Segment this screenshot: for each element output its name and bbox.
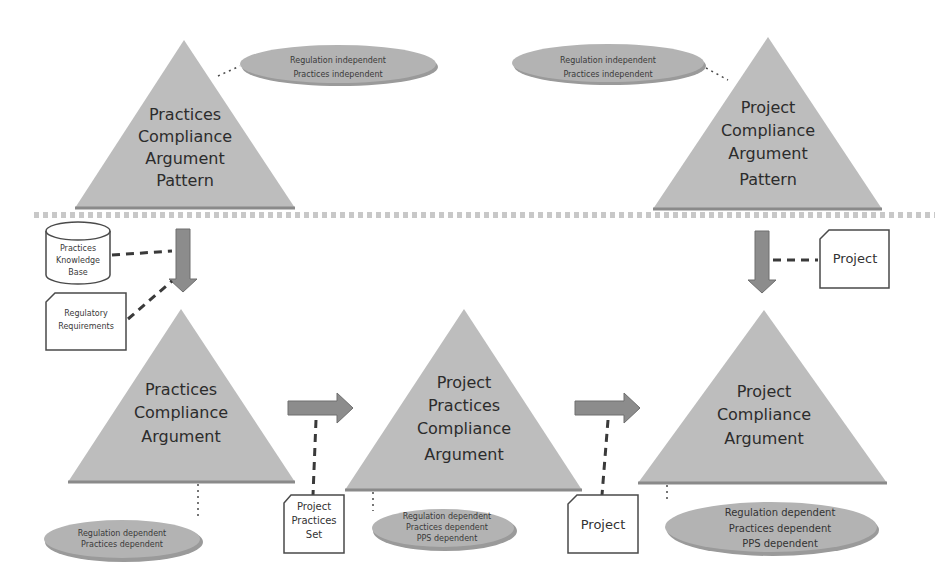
triangle-label-line: Practices (149, 105, 221, 124)
triangle-label-line: Project (737, 382, 792, 401)
triangle-label-line: Argument (141, 427, 220, 446)
triangle-label-line: Compliance (417, 419, 511, 438)
note-line: Practices independent (293, 70, 382, 79)
right-arrow-2 (575, 393, 640, 423)
triangle-label-line: Project (437, 373, 492, 392)
regulatory-requirements-document: Regulatory Requirements (46, 293, 126, 350)
triangle-label-line: Argument (424, 445, 503, 464)
note-line: Regulation independent (560, 56, 656, 65)
document-label-line: Practices (291, 515, 336, 526)
triangle-label-line: Pattern (739, 170, 797, 189)
project-compliance-argument-triangle: Project Compliance Argument (638, 310, 887, 483)
triangle-label-line: Compliance (721, 121, 815, 140)
dashed-connector (313, 420, 316, 495)
down-arrow-left (169, 229, 197, 292)
document-label-line: Set (306, 529, 323, 540)
compliance-argument-diagram: Practices Compliance Argument Pattern Re… (0, 0, 937, 585)
dependence-note-ellipse-2: Regulation dependent Practices dependent… (372, 509, 517, 551)
triangle-label-line: Argument (724, 429, 803, 448)
triangle-label-line: Compliance (138, 127, 232, 146)
triangle-label-line: Argument (145, 149, 224, 168)
document-label-line: Regulatory (64, 309, 108, 318)
document-label: Project (581, 517, 625, 532)
project-document-bottom: Project (568, 495, 638, 553)
dashed-connector (128, 281, 172, 319)
dashed-connector (602, 420, 608, 495)
note-line: PPS dependent (742, 538, 818, 549)
independence-note-ellipse-right: Regulation independent Practices indepen… (512, 44, 706, 85)
triangle-label-line: Practices (428, 396, 500, 415)
document-label-line: Project (297, 501, 331, 512)
dashed-connector (112, 251, 172, 255)
independence-note-ellipse-left: Regulation independent Practices indepen… (240, 45, 438, 86)
cylinder-label-line: Base (68, 268, 88, 277)
note-line: PPS dependent (417, 534, 478, 543)
dotted-connector (706, 68, 728, 80)
dependence-note-ellipse-3: Regulation dependent Practices dependent… (665, 502, 879, 556)
triangle-label-line: Compliance (717, 405, 811, 424)
practices-knowledge-base-cylinder: Practices Knowledge Base (46, 222, 110, 284)
down-arrow-right (748, 231, 776, 293)
right-arrow-1 (288, 393, 353, 423)
triangle-label-line: Practices (145, 380, 217, 399)
cylinder-label-line: Knowledge (56, 256, 100, 265)
note-line: Regulation dependent (725, 507, 836, 518)
note-line: Practices independent (563, 70, 652, 79)
note-line: Regulation dependent (403, 512, 492, 521)
triangle-label-line: Argument (728, 144, 807, 163)
triangle-label-line: Compliance (134, 403, 228, 422)
project-document-top: Project (820, 230, 889, 288)
document-label-line: Requirements (58, 322, 114, 331)
note-line: Practices dependent (81, 540, 163, 549)
note-line: Practices dependent (729, 523, 832, 534)
dotted-connector (218, 66, 240, 76)
project-practices-compliance-argument-triangle: Project Practices Compliance Argument (345, 309, 582, 490)
dependence-note-ellipse-1: Regulation dependent Practices dependent (44, 520, 203, 562)
note-line: Regulation dependent (78, 529, 167, 538)
project-practices-set-document: Project Practices Set (284, 495, 344, 553)
note-line: Regulation independent (290, 56, 386, 65)
note-line: Practices dependent (406, 523, 488, 532)
triangle-label-line: Project (741, 98, 796, 117)
document-label: Project (833, 251, 877, 266)
triangle-label-line: Pattern (156, 171, 214, 190)
cylinder-label-line: Practices (60, 244, 96, 253)
